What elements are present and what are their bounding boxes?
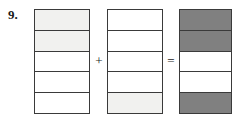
bar3-cell-3 [180, 52, 231, 73]
bar3-cell-4 [180, 72, 231, 93]
equals-operator: = [164, 54, 178, 67]
bar1-cell-4 [35, 72, 89, 93]
fraction-bar-sum [179, 9, 232, 114]
fraction-bar-addend-1 [34, 9, 90, 114]
fraction-addition-figure: 9. + = [0, 0, 245, 122]
plus-operator: + [92, 54, 106, 67]
bar3-cell-1 [180, 10, 231, 31]
fraction-bar-addend-2 [107, 9, 163, 114]
bar3-cell-5 [180, 93, 231, 113]
question-number: 9. [8, 8, 18, 21]
bar1-cell-2 [35, 31, 89, 52]
bar1-cell-3 [35, 52, 89, 73]
bar1-cell-1 [35, 10, 89, 31]
bar2-cell-5 [108, 93, 162, 113]
bar1-cell-5 [35, 93, 89, 113]
bar2-cell-2 [108, 31, 162, 52]
bar2-cell-4 [108, 72, 162, 93]
bar3-cell-2 [180, 31, 231, 52]
bar2-cell-1 [108, 10, 162, 31]
bar2-cell-3 [108, 52, 162, 73]
